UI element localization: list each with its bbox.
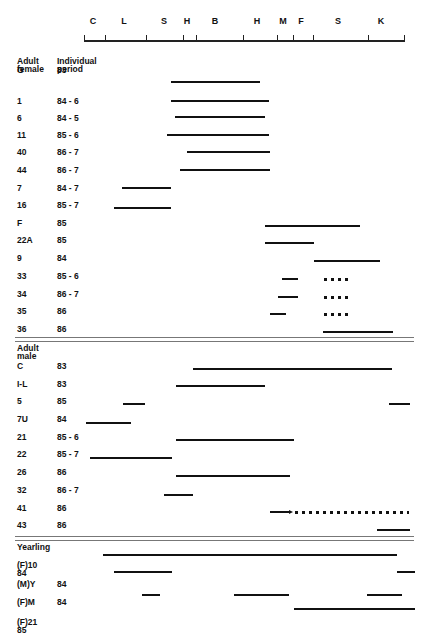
row-period-label: 86 — [57, 521, 66, 529]
solid-segment — [278, 296, 298, 298]
axis-label-m: M — [279, 16, 287, 26]
solid-segment — [175, 116, 265, 118]
row-id-label: 5 — [17, 397, 22, 405]
row-id-label: 11 — [17, 131, 26, 139]
solid-segment — [180, 169, 270, 171]
row-id-label: F — [17, 219, 22, 227]
row-period-label: 86 — [57, 504, 66, 512]
solid-segment — [114, 207, 171, 209]
solid-segment — [270, 313, 286, 315]
row-id-label: 22A — [17, 236, 33, 244]
axis-tick — [183, 35, 184, 41]
axis-tick — [105, 35, 106, 41]
solid-segment — [142, 594, 160, 596]
axis-label-c: C — [90, 16, 97, 26]
solid-segment — [265, 225, 360, 227]
row-period-label: 85 - 6 — [57, 433, 79, 441]
row-id-label: 21 — [17, 433, 26, 441]
axis-tick — [404, 35, 405, 41]
row-period-label: 85 — [57, 236, 66, 244]
row-id-label: 1 — [17, 97, 22, 105]
solid-segment — [187, 151, 270, 153]
axis-tick — [196, 35, 197, 41]
row-id-label: 6 — [17, 114, 22, 122]
row-period-label: 86 — [57, 468, 66, 476]
row-period-label: 86 - 7 — [57, 290, 79, 298]
row-period-label: 83 — [57, 66, 66, 74]
row-id-label: (F)21 85 — [17, 618, 37, 634]
axis-tick — [368, 35, 369, 41]
axis-label-s: S — [335, 16, 341, 26]
solid-segment — [389, 403, 410, 405]
row-id-label: 35 — [17, 307, 26, 315]
row-period-label: 86 - 7 — [57, 166, 79, 174]
solid-segment — [234, 594, 289, 596]
axis-tick — [313, 35, 314, 41]
row-id-label: I-L — [17, 380, 27, 388]
row-period-label: 86 - 7 — [57, 148, 79, 156]
axis-label-h: H — [254, 16, 261, 26]
row-id-label: 43 — [17, 521, 26, 529]
solid-segment — [171, 81, 260, 83]
axis-label-k: K — [378, 16, 385, 26]
row-period-label: 85 - 6 — [57, 272, 79, 280]
row-id-label: 33 — [17, 272, 26, 280]
row-id-label: 22 — [17, 450, 26, 458]
row-period-label: 85 — [57, 397, 66, 405]
row-period-label: 84 — [57, 415, 66, 423]
row-id-label: C — [17, 362, 23, 370]
group-separator-yearling — [15, 536, 414, 541]
row-id-label: (M)Y — [17, 580, 35, 588]
solid-segment — [86, 422, 131, 424]
solid-segment — [123, 403, 145, 405]
solid-segment — [171, 100, 269, 102]
solid-segment — [167, 134, 269, 136]
row-period-label: 86 - 7 — [57, 486, 79, 494]
solid-segment — [176, 385, 265, 387]
solid-segment — [367, 594, 402, 596]
axis-label-l: L — [121, 16, 127, 26]
dotted-segment — [324, 296, 351, 299]
arrow-head-icon — [289, 510, 293, 514]
row-id-label: 7 — [17, 184, 22, 192]
axis-label-h: H — [184, 16, 191, 26]
row-period-label: 83 — [57, 380, 66, 388]
axis-line — [84, 40, 405, 42]
row-period-label: 84 - 6 — [57, 97, 79, 105]
row-period-label: 86 — [57, 325, 66, 333]
solid-segment — [282, 278, 298, 280]
solid-segment — [176, 439, 294, 441]
row-period-label: 84 - 5 — [57, 114, 79, 122]
row-id-label: 34 — [17, 290, 26, 298]
solid-segment — [323, 331, 393, 333]
solid-segment — [397, 571, 415, 573]
row-period-label: 83 — [57, 362, 66, 370]
row-id-label: 7U — [17, 415, 28, 423]
axis-tick — [84, 35, 85, 41]
row-id-label: 9 — [17, 254, 22, 262]
row-period-label: 84 - 7 — [57, 184, 79, 192]
solid-segment — [193, 368, 392, 370]
row-id-label: G — [17, 66, 24, 74]
solid-segment — [314, 260, 380, 262]
axis-tick — [293, 35, 294, 41]
row-id-label: 40 — [17, 148, 26, 156]
row-id-label: 26 — [17, 468, 26, 476]
axis-tick — [277, 35, 278, 41]
dotted-segment — [324, 278, 351, 281]
dotted-segment — [295, 511, 409, 514]
axis-label-b: B — [212, 16, 219, 26]
row-period-label: 84 — [57, 254, 66, 262]
group-separator-male — [15, 337, 414, 342]
solid-segment — [377, 529, 410, 531]
row-period-label: 84 — [57, 580, 66, 588]
row-period-label: 85 - 7 — [57, 201, 79, 209]
solid-segment — [103, 554, 397, 556]
solid-segment — [270, 511, 291, 513]
axis-tick — [243, 35, 244, 41]
dotted-segment — [324, 313, 351, 316]
group-header-adult-male: Adult male — [17, 344, 39, 360]
solid-segment — [265, 242, 314, 244]
solid-segment — [90, 457, 172, 459]
row-period-label: 85 - 6 — [57, 131, 79, 139]
